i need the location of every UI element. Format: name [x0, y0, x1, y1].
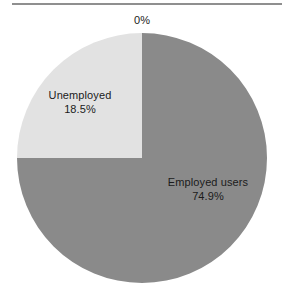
pie-label-zero-percent-value: 0%: [112, 14, 172, 28]
pie-label-unemployed-value: 18.5%: [15, 103, 145, 117]
pie-chart-plot-area: [17, 33, 267, 283]
pie-chart-figure: 0% Unemployed 18.5% Employed users 74.9%: [0, 0, 282, 295]
pie-chart-svg: [17, 33, 267, 283]
pie-label-employed-users-name: Employed users: [148, 176, 268, 190]
pie-label-unemployed-name: Unemployed: [15, 89, 145, 103]
pie-label-zero-percent: 0%: [112, 14, 172, 28]
pie-label-unemployed: Unemployed 18.5%: [15, 89, 145, 116]
pie-label-employed-users: Employed users 74.9%: [148, 176, 268, 203]
pie-label-employed-users-value: 74.9%: [148, 190, 268, 204]
top-divider-rule: [12, 3, 282, 5]
